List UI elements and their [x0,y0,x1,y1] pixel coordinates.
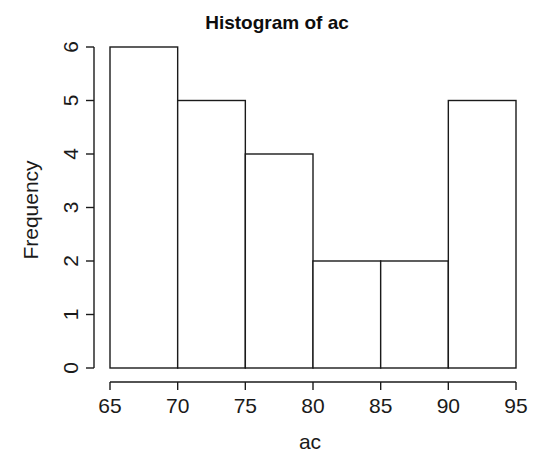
y-tick-label-6: 6 [59,41,82,53]
x-tick-label-85: 85 [369,394,392,417]
y-tick-label-1: 1 [59,309,82,321]
bar-bin-70-75 [178,101,246,369]
histogram-figure: Histogram of ac 0 1 2 3 4 5 6 Frequency [0,0,555,464]
bar-bin-85-90 [381,261,449,368]
bar-bin-75-80 [245,154,313,368]
x-tick-label-65: 65 [98,394,121,417]
y-tick-label-5: 5 [59,95,82,107]
y-tick-label-0: 0 [59,362,82,374]
x-axis-title: ac [299,430,321,453]
y-tick-label-3: 3 [59,202,82,214]
y-tick-label-2: 2 [59,255,82,267]
bar-bin-90-95 [448,101,516,369]
x-tick-label-75: 75 [234,394,257,417]
x-tick-label-70: 70 [166,394,189,417]
x-tick-label-95: 95 [504,394,527,417]
chart-title: Histogram of ac [205,12,349,33]
x-tick-label-80: 80 [301,394,324,417]
y-axis-title: Frequency [19,160,42,260]
x-tick-label-90: 90 [437,394,460,417]
bar-bin-80-85 [313,261,381,368]
y-tick-label-4: 4 [59,148,82,160]
histogram-plot: Histogram of ac 0 1 2 3 4 5 6 Frequency [0,0,555,464]
bar-bin-65-70 [110,47,178,368]
